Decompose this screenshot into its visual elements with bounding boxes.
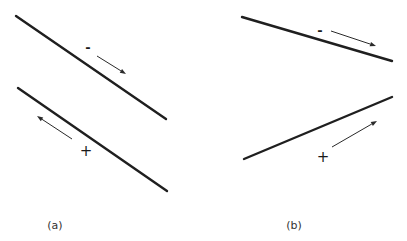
panel-b: - + (b) bbox=[242, 17, 392, 232]
panel-b-label: (b) bbox=[286, 219, 302, 232]
diagram-canvas: - + (a) - + (b) bbox=[0, 0, 407, 241]
panel-a-label: (a) bbox=[47, 219, 62, 232]
panel-b-plus-sign: + bbox=[317, 148, 330, 166]
panel-a-plus-sign: + bbox=[80, 142, 93, 160]
panel-a-lower-arrow-icon bbox=[37, 116, 72, 139]
panel-a: - + (a) bbox=[16, 16, 167, 232]
panel-a-minus-sign: - bbox=[85, 40, 90, 55]
panel-b-lower-arrow-icon bbox=[332, 121, 377, 147]
panel-a-upper-arrow-icon bbox=[97, 56, 126, 74]
panel-b-minus-sign: - bbox=[317, 23, 322, 38]
